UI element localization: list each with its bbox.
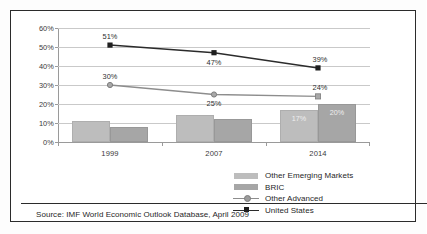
y-tick-label-40: 40% — [39, 62, 54, 71]
x-tickmark-2 — [266, 142, 267, 146]
y-tick-label-20: 20% — [39, 100, 54, 109]
point-label-us-2007: 47% — [206, 58, 221, 67]
marker-united-states-2014 — [315, 65, 320, 70]
point-label-adv-2014: 24% — [312, 83, 327, 92]
circle-marker-icon — [244, 195, 251, 202]
x-tickmark-1 — [162, 142, 163, 146]
marker-other-advanced-2007 — [211, 92, 216, 97]
marker-other-advanced-1999 — [107, 82, 112, 87]
source-note: Source: IMF World Economic Outlook Datab… — [36, 210, 249, 219]
legend-item-bric: BRIC — [233, 182, 403, 194]
y-tick-label-50: 50% — [39, 43, 54, 52]
point-label-us-1999: 51% — [102, 32, 117, 41]
x-tick-label-2007: 2007 — [205, 149, 222, 158]
legend-label-bric: BRIC — [265, 183, 284, 192]
legend-label-other-emerging-markets: Other Emerging Markets — [265, 171, 353, 180]
y-tick-label-0: 0% — [43, 138, 54, 147]
x-tickmark-start — [58, 142, 59, 146]
y-tick-label-60: 60% — [39, 24, 54, 33]
legend-label-other-advanced: Other Advanced — [265, 194, 323, 203]
marker-united-states-2007 — [211, 50, 216, 55]
point-label-us-2014: 39% — [312, 55, 327, 64]
legend-swatch-other-emerging-markets — [233, 170, 259, 181]
point-label-adv-1999: 30% — [102, 72, 117, 81]
point-label-adv-2007: 25% — [206, 99, 221, 108]
x-tickmark-end — [369, 142, 370, 146]
x-axis-line — [58, 142, 370, 143]
x-axis: 1999 2007 2014 — [58, 142, 370, 162]
marker-other-advanced-2014 — [315, 94, 320, 99]
plot-area: 60% 50% 40% 30% 20% 10% 0% — [58, 28, 370, 142]
chart-frame: 60% 50% 40% 30% 20% 10% 0% — [10, 10, 416, 222]
x-tick-label-2014: 2014 — [309, 149, 326, 158]
x-tick-label-1999: 1999 — [101, 149, 118, 158]
legend-item-other-emerging-markets: Other Emerging Markets — [233, 170, 403, 182]
source-row: Source: IMF World Economic Outlook Datab… — [21, 203, 427, 233]
marker-united-states-1999 — [107, 43, 112, 48]
y-tick-label-30: 30% — [39, 81, 54, 90]
y-tick-label-10: 10% — [39, 119, 54, 128]
legend-swatch-bric — [233, 182, 259, 193]
